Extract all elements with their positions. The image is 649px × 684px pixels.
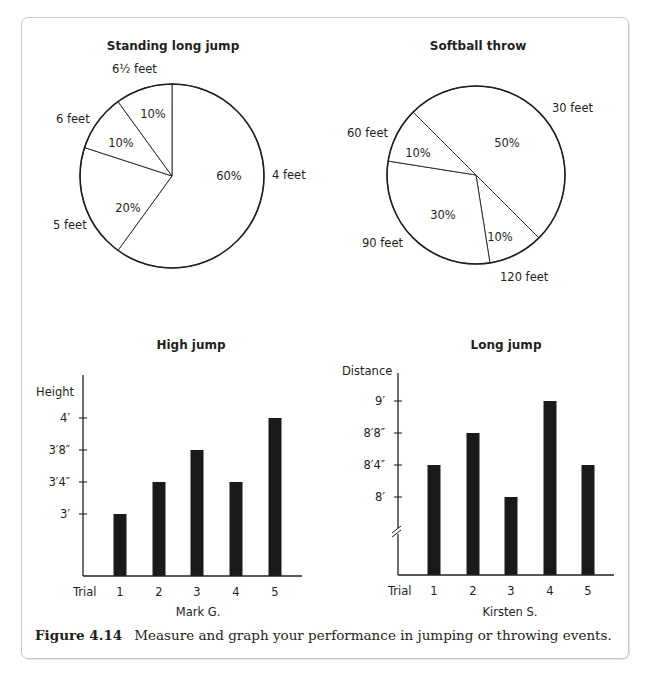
bar bbox=[269, 418, 282, 576]
bar bbox=[505, 497, 518, 575]
caption-text: Measure and graph your performance in ju… bbox=[134, 627, 612, 643]
chart-title: Softball throw bbox=[430, 39, 526, 53]
x-tick-label: 5 bbox=[584, 584, 591, 598]
figure-canvas: Standing long jump 60%4 feet20%5 feet10%… bbox=[0, 0, 649, 684]
bar bbox=[114, 514, 127, 576]
x-tick-label: 4 bbox=[546, 584, 553, 598]
x-tick-label: 3 bbox=[507, 584, 514, 598]
x-tick-label: 4 bbox=[232, 585, 239, 599]
y-axis-label: Distance bbox=[342, 364, 392, 378]
bar bbox=[191, 450, 204, 576]
x-axis-prefix: Trial bbox=[72, 585, 97, 599]
chart-title: Long jump bbox=[471, 338, 542, 352]
slice-category-label: 30 feet bbox=[552, 101, 593, 115]
x-tick-label: 1 bbox=[116, 585, 123, 599]
y-tick-label: 9′ bbox=[375, 394, 385, 408]
y-tick-label: 3′8″ bbox=[48, 443, 70, 457]
slice-percent-label: 10% bbox=[140, 107, 166, 121]
y-tick-label: 8′4″ bbox=[363, 458, 385, 472]
x-tick-label: 5 bbox=[271, 585, 278, 599]
x-axis-label: Kirsten S. bbox=[483, 605, 538, 619]
y-tick-label: 3′ bbox=[60, 507, 70, 521]
pie-softball-throw: Softball throw 50%30 feet10%120 feet30%9… bbox=[347, 39, 593, 284]
chart-title: Standing long jump bbox=[107, 39, 240, 53]
slice-percent-label: 50% bbox=[494, 136, 520, 150]
figure-caption: Figure 4.14Measure and graph your perfor… bbox=[35, 627, 612, 643]
bar-chart-long-jump: Long jump Distance Trial Kirsten S. 1234… bbox=[342, 338, 614, 619]
bar bbox=[230, 482, 243, 576]
slice-percent-label: 60% bbox=[216, 169, 242, 183]
slice-category-label: 90 feet bbox=[362, 236, 403, 250]
bar-chart-high-jump: High jump Height Trial Mark G. 123453′3′… bbox=[36, 338, 302, 619]
slice-category-label: 5 feet bbox=[53, 218, 87, 232]
x-tick-label: 2 bbox=[469, 584, 476, 598]
bar bbox=[467, 433, 480, 575]
slice-category-label: 4 feet bbox=[272, 168, 306, 182]
bar bbox=[153, 482, 166, 576]
y-tick-label: 4′ bbox=[60, 411, 70, 425]
y-tick-label: 8′ bbox=[375, 490, 385, 504]
y-axis-label: Height bbox=[36, 385, 75, 399]
slice-category-label: 120 feet bbox=[500, 270, 549, 284]
pie-standing-long-jump: Standing long jump 60%4 feet20%5 feet10%… bbox=[53, 39, 306, 268]
slice-percent-label: 20% bbox=[115, 201, 141, 215]
x-tick-label: 3 bbox=[193, 585, 200, 599]
x-axis-label: Mark G. bbox=[176, 605, 221, 619]
slice-percent-label: 30% bbox=[430, 208, 456, 222]
slice-category-label: 6 feet bbox=[56, 112, 90, 126]
figure-label: Figure 4.14 bbox=[35, 627, 122, 643]
slice-category-label: 60 feet bbox=[347, 126, 388, 140]
slice-percent-label: 10% bbox=[405, 146, 431, 160]
slice-category-label: 6½ feet bbox=[112, 62, 157, 76]
bar bbox=[428, 465, 441, 575]
bar bbox=[544, 401, 557, 575]
slice-percent-label: 10% bbox=[108, 136, 134, 150]
y-tick-label: 3′4″ bbox=[48, 475, 70, 489]
slice-percent-label: 10% bbox=[487, 230, 513, 244]
x-tick-label: 1 bbox=[430, 584, 437, 598]
chart-title: High jump bbox=[156, 338, 226, 352]
x-axis-prefix: Trial bbox=[387, 584, 412, 598]
x-tick-label: 2 bbox=[155, 585, 162, 599]
bar bbox=[582, 465, 595, 575]
y-tick-label: 8′8″ bbox=[363, 426, 385, 440]
